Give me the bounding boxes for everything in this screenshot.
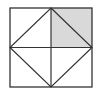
geometry-figure <box>0 0 95 89</box>
